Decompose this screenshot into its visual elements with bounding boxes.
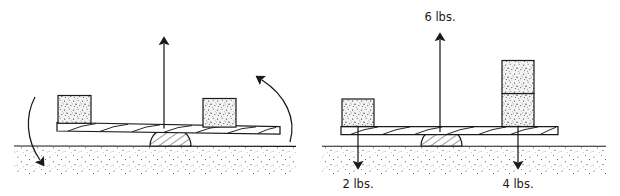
lever-physics-diagram: 6 lbs. 2 lbs. 4 lbs. [0, 0, 620, 196]
stacked-blocks-right-panel [502, 61, 534, 127]
left-block-left-panel [58, 96, 91, 124]
ground-stipple-right [322, 146, 606, 175]
block-left-panel-left [58, 96, 91, 124]
right-block-left-panel [203, 99, 236, 128]
block-left-panel-right [203, 99, 236, 128]
ground-left [14, 146, 296, 175]
left-block-right-panel [342, 99, 374, 127]
block-right-panel-upper [502, 61, 534, 94]
plank-right [341, 127, 558, 135]
ground-right [322, 146, 606, 175]
ground-stipple-left [14, 146, 296, 175]
label-left-weight: 2 lbs. [342, 177, 373, 191]
block-right-panel-lower [502, 94, 534, 127]
label-right-weight: 4 lbs. [502, 177, 533, 191]
block-right-panel-left [342, 99, 374, 127]
label-up-force: 6 lbs. [424, 10, 455, 24]
